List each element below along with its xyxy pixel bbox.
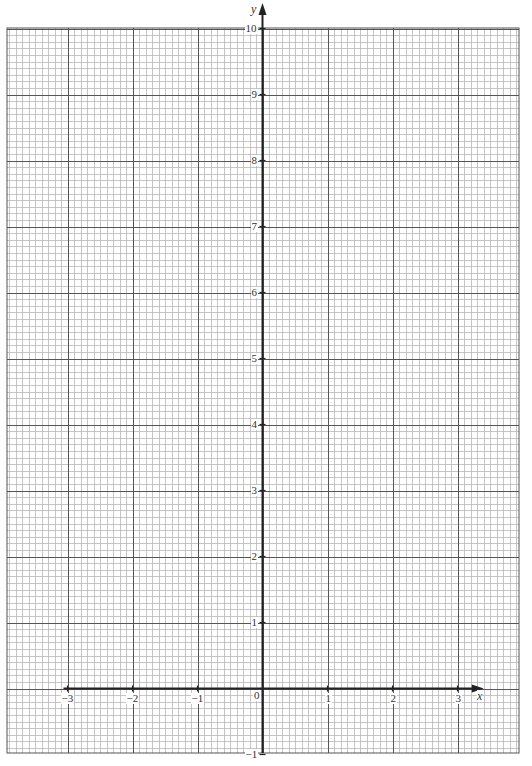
y-tick-label: 4 xyxy=(251,419,259,430)
x-tick-label: 3 xyxy=(455,693,463,704)
x-tick-label: 1 xyxy=(325,693,333,704)
y-tick-label: 10 xyxy=(245,23,258,34)
x-axis-label: x xyxy=(477,690,482,702)
y-tick-label: 7 xyxy=(251,221,259,232)
x-tick-label: −3 xyxy=(61,693,75,704)
y-tick-label: 6 xyxy=(251,287,259,298)
y-tick-label: 8 xyxy=(251,155,259,166)
origin-label: 0 xyxy=(253,690,261,701)
y-axis-arrow-icon xyxy=(259,3,267,15)
y-tick-label: 1 xyxy=(251,617,259,628)
x-tick-label: −1 xyxy=(191,693,205,704)
y-axis-label: y xyxy=(251,3,256,15)
y-tick-label: −1 xyxy=(245,749,259,760)
x-tick-label: −2 xyxy=(126,693,140,704)
y-tick-label: 3 xyxy=(251,485,259,496)
y-tick-label: 2 xyxy=(251,551,259,562)
y-tick-label: 5 xyxy=(251,353,259,364)
graph-paper xyxy=(0,0,532,766)
y-tick-label: 9 xyxy=(251,89,259,100)
x-tick-label: 2 xyxy=(390,693,398,704)
